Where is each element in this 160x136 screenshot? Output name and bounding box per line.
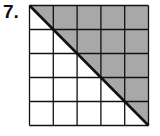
grid-diagram [0,0,160,136]
